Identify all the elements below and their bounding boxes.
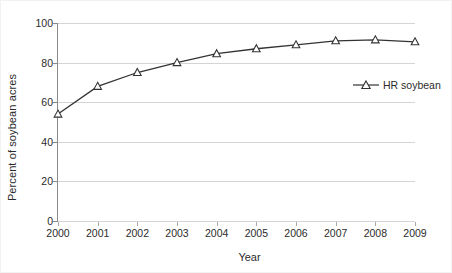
x-axis-tick-label: 2007 bbox=[314, 227, 358, 239]
x-axis-tick-mark bbox=[256, 222, 257, 226]
x-axis-tick-label: 2001 bbox=[76, 227, 120, 239]
chart-legend: HR soybean bbox=[353, 79, 441, 91]
x-axis-tick-mark bbox=[375, 222, 376, 226]
x-axis-tick-label: 2003 bbox=[155, 227, 199, 239]
x-axis-tick-label: 2005 bbox=[234, 227, 278, 239]
legend-marker-icon bbox=[353, 79, 379, 91]
x-axis-tick-mark bbox=[177, 222, 178, 226]
x-axis-tick-mark bbox=[217, 222, 218, 226]
x-axis-tick-label: 2000 bbox=[36, 227, 80, 239]
legend-entry-label: HR soybean bbox=[383, 79, 441, 91]
x-axis-tick-mark bbox=[296, 222, 297, 226]
x-axis-tick-mark bbox=[336, 222, 337, 226]
x-axis-tick-label: 2006 bbox=[274, 227, 318, 239]
x-axis-tick-label: 2008 bbox=[353, 227, 397, 239]
x-axis-tick-mark bbox=[137, 222, 138, 226]
x-axis-tick-mark bbox=[58, 222, 59, 226]
x-axis-tick-label: 2002 bbox=[115, 227, 159, 239]
x-axis-tick-label: 2009 bbox=[393, 227, 437, 239]
x-axis-tick-mark bbox=[415, 222, 416, 226]
data-point-marker bbox=[54, 110, 62, 117]
x-axis-tick-label: 2004 bbox=[195, 227, 239, 239]
chart-figure: Percent of soybean acres 020406080100 20… bbox=[0, 0, 452, 273]
x-axis-title: Year bbox=[58, 251, 441, 263]
series-line bbox=[58, 40, 415, 114]
x-axis-tick-mark bbox=[98, 222, 99, 226]
